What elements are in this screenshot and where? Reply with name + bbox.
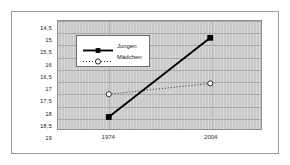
y-tick-label: 15,5 (40, 49, 52, 55)
y-tick-label: 15 (45, 37, 52, 43)
data-point-jungen (208, 35, 213, 40)
legend-label: Jungen (117, 43, 137, 49)
y-tick-label: 19 (45, 135, 52, 141)
data-point-jungen (106, 115, 111, 120)
x-tick-label: 1974 (102, 134, 115, 140)
plot-area: JungenMädchen (57, 20, 262, 130)
legend-item-jungen: Jungen (82, 40, 142, 51)
y-tick-label: 16,5 (40, 74, 52, 80)
y-tick-label: 16 (45, 62, 52, 68)
y-axis-tick-labels: 14,51515,51616,51717,51818,519 (12, 20, 55, 130)
x-tick-label: 2004 (204, 134, 217, 140)
x-axis-tick-labels: 19742004 (57, 134, 262, 146)
y-tick-label: 18,5 (40, 123, 52, 129)
series-line-mädchen (109, 83, 211, 94)
legend-solid-line-square-marker-icon (82, 41, 114, 50)
y-tick-label: 14,5 (40, 25, 52, 31)
chart-figure: Zeit in Sekunden 14,51515,51616,51717,51… (11, 11, 279, 154)
data-point-mädchen (106, 92, 111, 97)
legend-item-mädchen: Mädchen (82, 51, 142, 62)
data-point-mädchen (208, 81, 213, 86)
y-tick-label: 18 (45, 111, 52, 117)
chart-legend: JungenMädchen (76, 35, 150, 67)
y-tick-label: 17,5 (40, 98, 52, 104)
legend-label: Mädchen (117, 54, 142, 60)
legend-dotted-line-circle-marker-icon (82, 52, 114, 61)
y-tick-label: 17 (45, 86, 52, 92)
